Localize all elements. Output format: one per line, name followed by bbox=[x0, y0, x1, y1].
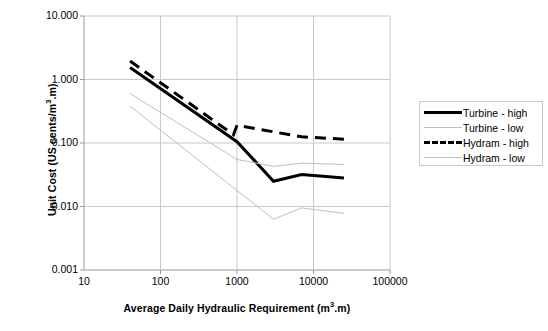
solid-thin-gray-line-icon bbox=[423, 151, 463, 165]
legend-item[interactable]: Turbine - low bbox=[420, 120, 542, 135]
x-axis-tick-label: 10 bbox=[44, 276, 124, 287]
legend-item-label: Hydram - low bbox=[463, 152, 525, 164]
legend-item-label: Turbine - high bbox=[463, 107, 527, 119]
y-axis-title-post: .m) bbox=[46, 83, 58, 99]
legend-item[interactable]: Hydram - high bbox=[420, 135, 542, 150]
y-axis-title: Unit Cost (US cents/m3.m) bbox=[44, 35, 58, 265]
solid-thin-gray-line-icon bbox=[423, 121, 463, 135]
legend-item[interactable]: Hydram - low bbox=[420, 150, 542, 165]
legend-item-label: Hydram - high bbox=[463, 137, 529, 149]
x-axis-tick-label: 1000 bbox=[197, 276, 277, 287]
legend-item[interactable]: Turbine - high bbox=[420, 105, 542, 120]
solid-thick-black-line-icon bbox=[423, 106, 463, 120]
legend: Turbine - highTurbine - lowHydram - high… bbox=[419, 101, 543, 166]
x-axis-title-post: .m) bbox=[334, 302, 350, 314]
y-axis-title-superscript: 3 bbox=[44, 99, 53, 103]
legend-item-label: Turbine - low bbox=[463, 122, 523, 134]
x-axis-title-pre: Average Daily Hydraulic Requirement (m bbox=[124, 302, 330, 314]
x-axis-title: Average Daily Hydraulic Requirement (m3.… bbox=[84, 300, 390, 314]
log-log-line-chart: 0.0010.0100.1001.00010.000 1010010001000… bbox=[0, 0, 548, 331]
dashed-thick-black-line-icon bbox=[423, 136, 463, 150]
x-axis-tick-label: 10000 bbox=[274, 276, 354, 287]
x-axis-tick-label: 100 bbox=[121, 276, 201, 287]
y-axis-title-pre: Unit Cost (US cents/m bbox=[46, 104, 58, 216]
x-axis-tick-label: 100000 bbox=[350, 276, 430, 287]
